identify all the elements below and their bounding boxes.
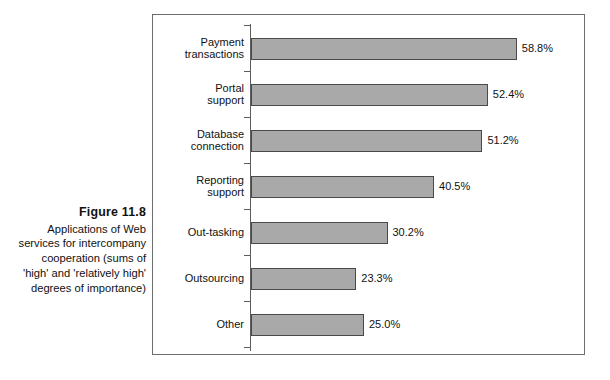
- bar: [251, 38, 517, 60]
- bar-category-label: Portal support: [154, 83, 244, 106]
- bar: [251, 314, 364, 336]
- bar: [251, 222, 388, 244]
- bar-row: Payment transactions58.8%: [153, 38, 584, 60]
- bar-row: Outsourcing23.3%: [153, 268, 584, 290]
- bar-row: Database connection51.2%: [153, 130, 584, 152]
- bar-row: Out-tasking30.2%: [153, 222, 584, 244]
- figure-caption: Figure 11.8 Applications of Web services…: [18, 204, 146, 296]
- bar-category-label: Outsourcing: [154, 273, 244, 285]
- bar: [251, 268, 356, 290]
- axis-tick: [244, 117, 250, 118]
- bar-value-label: 51.2%: [487, 135, 518, 146]
- bar: [251, 130, 482, 152]
- figure-frame: Payment transactions58.8%Portal support5…: [152, 14, 585, 355]
- axis-tick: [244, 163, 250, 164]
- axis-tick: [244, 255, 250, 256]
- axis-tick: [244, 347, 250, 348]
- axis-tick: [244, 25, 250, 26]
- figure-number: Figure 11.8: [18, 204, 146, 221]
- axis-tick: [244, 71, 250, 72]
- bar-row: Portal support52.4%: [153, 84, 584, 106]
- bar-value-label: 30.2%: [393, 227, 424, 238]
- bar-row: Reporting support40.5%: [153, 176, 584, 198]
- axis-tick: [244, 301, 250, 302]
- bar-category-label: Out-tasking: [154, 227, 244, 239]
- bar-value-label: 25.0%: [369, 319, 400, 330]
- bar-value-label: 58.8%: [522, 43, 553, 54]
- bar-value-label: 40.5%: [439, 181, 470, 192]
- bar: [251, 176, 434, 198]
- bar-category-label: Reporting support: [154, 175, 244, 198]
- bar: [251, 84, 488, 106]
- bar-value-label: 52.4%: [493, 89, 524, 100]
- bar-category-label: Database connection: [154, 129, 244, 152]
- figure-caption-text: Applications of Web services for interco…: [18, 222, 146, 296]
- bar-chart-plot-area: Payment transactions58.8%Portal support5…: [153, 15, 584, 354]
- bar-category-label: Payment transactions: [154, 37, 244, 60]
- axis-tick: [244, 209, 250, 210]
- bar-row: Other25.0%: [153, 314, 584, 336]
- bar-category-label: Other: [154, 319, 244, 331]
- bar-value-label: 23.3%: [361, 273, 392, 284]
